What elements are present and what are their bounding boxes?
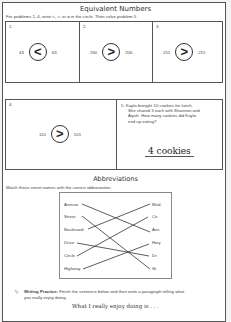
abbreviation[interactable]: St.: [152, 266, 157, 271]
abbreviations-instructions: Match these street names with the correc…: [6, 185, 112, 190]
right-number: 101: [74, 132, 81, 137]
problem-5-box: 5. Kayla brought 10 cookies for lunch. S…: [116, 99, 223, 170]
left-number: 251: [163, 50, 170, 55]
left-number: 260: [90, 50, 97, 55]
street-name[interactable]: Boulevard: [64, 227, 83, 232]
pencil-icon: ✎: [14, 288, 19, 295]
right-number: 63: [52, 50, 57, 55]
left-number: 43: [19, 50, 24, 55]
problem-3-box: 3. 251 > 215: [152, 21, 223, 83]
abbreviations-title: Abbreviations: [0, 175, 231, 183]
writing-instructions: Writing Practice: Finish the sentence be…: [24, 289, 184, 300]
street-name[interactable]: Circle: [64, 253, 75, 258]
problem-text-line: end up eating?: [121, 119, 200, 124]
matching-exercise: Avenue Street Boulevard Drive Circle Hig…: [59, 192, 172, 279]
comparison: 43 < 63: [19, 43, 57, 61]
problem-1-box: 1. 43 < 63: [5, 21, 80, 83]
problem-4-box: 4. 110 > 101: [5, 99, 117, 170]
answer-circle[interactable]: >: [51, 125, 69, 143]
problem-2-box: 2. 260 > 206: [79, 21, 153, 83]
abbreviation[interactable]: Cir.: [152, 214, 158, 219]
problem-label: 5.: [121, 103, 125, 108]
writing-label: Writing Practice:: [24, 289, 58, 294]
writing-line: you really enjoy doing.: [24, 295, 184, 301]
right-number: 215: [198, 50, 205, 55]
answer-circle[interactable]: >: [102, 43, 120, 61]
problem-label: 2.: [83, 24, 87, 29]
word-problem: 5. Kayla brought 10 cookies for lunch. S…: [121, 103, 200, 124]
problem-label: 1.: [9, 24, 13, 29]
worksheet-instructions: For problems 1–4, write <, >, or = in th…: [6, 14, 137, 19]
comparison: 260 > 206: [90, 43, 132, 61]
street-name[interactable]: Highway: [64, 266, 80, 271]
street-name[interactable]: Avenue: [64, 202, 79, 207]
abbreviation[interactable]: Ave.: [152, 227, 161, 232]
problem-label: 4.: [9, 102, 13, 107]
writing-prompt: What I really enjoy doing is . . .: [0, 303, 231, 309]
greater-than-symbol: >: [56, 127, 64, 140]
writing-line: Finish the sentence below and then write…: [59, 289, 184, 294]
greater-than-symbol: >: [107, 45, 115, 58]
greater-than-symbol: >: [180, 45, 188, 58]
right-number: 206: [125, 50, 132, 55]
abbreviation[interactable]: Blvd.: [152, 202, 162, 207]
comparison: 251 > 215: [163, 43, 205, 61]
answer-circle[interactable]: >: [175, 43, 193, 61]
answer-field[interactable]: 4 cookies: [145, 146, 194, 157]
street-name[interactable]: Street: [64, 214, 75, 219]
left-number: 110: [39, 132, 46, 137]
abbreviation[interactable]: Dr.: [152, 253, 158, 258]
problem-text-line: Aiyah. How many cookies did Kayla: [121, 113, 200, 118]
less-than-symbol: <: [34, 45, 42, 58]
comparison: 110 > 101: [39, 125, 81, 143]
problem-label: 3.: [156, 24, 160, 29]
worksheet-title: Equivalent Numbers: [0, 5, 231, 13]
abbreviation[interactable]: Hwy.: [152, 240, 161, 245]
answer-circle[interactable]: <: [29, 43, 47, 61]
street-name[interactable]: Drive: [64, 240, 74, 245]
